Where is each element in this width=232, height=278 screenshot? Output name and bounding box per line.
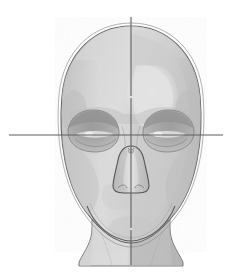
head-construction-drawing [0,0,232,278]
axis-tick-brow [130,96,132,98]
right-eye-highlight [154,131,163,136]
left-eye-highlight [85,132,93,137]
left-eye-socket [68,110,119,152]
axis-tick-chin [130,228,132,230]
drawing-canvas [0,0,232,278]
right-eye-socket [143,110,194,152]
